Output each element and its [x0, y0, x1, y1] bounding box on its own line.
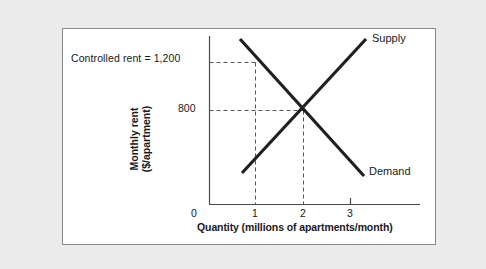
x-axis-tick-label-1: 1	[252, 208, 258, 219]
y-axis-title-line-1: Monthly rent	[128, 84, 140, 194]
y-axis-title: Monthly rent ($/apartment)	[128, 84, 148, 194]
y-axis-title-line-2: ($/apartment)	[140, 84, 152, 194]
x-axis-tick-label-3: 3	[347, 208, 353, 219]
x-axis-tick-label-2: 2	[300, 208, 306, 219]
supply-curve-label: Supply	[372, 33, 406, 45]
demand-curve-label: Demand	[369, 166, 411, 178]
x-axis-title: Quantity (millions of apartments/month)	[197, 222, 393, 233]
controlled-rent-annotation: Controlled rent = 1,200	[71, 53, 180, 64]
y-axis-tick-label-800: 800	[178, 103, 196, 114]
x-axis-origin-label: 0	[191, 208, 197, 219]
